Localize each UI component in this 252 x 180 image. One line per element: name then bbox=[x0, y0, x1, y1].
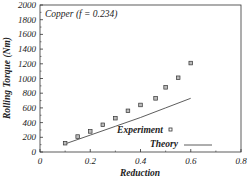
material-annotation: Copper (f = 0.234) bbox=[45, 9, 117, 20]
rolling-torque-chart: 0200400600800100012001400160018002000 00… bbox=[0, 0, 252, 180]
experiment-point bbox=[114, 116, 118, 120]
y-tick-label: 800 bbox=[23, 88, 37, 98]
x-axis-title: Reduction bbox=[119, 168, 160, 178]
theory-line bbox=[65, 98, 191, 144]
experiment-point bbox=[63, 141, 67, 145]
experiment-point bbox=[76, 135, 80, 139]
y-tick-label: 200 bbox=[23, 132, 37, 142]
experiment-point bbox=[176, 76, 180, 80]
experiment-point bbox=[139, 103, 143, 107]
y-tick-label: 1600 bbox=[18, 29, 37, 39]
legend: Experiment Theory bbox=[116, 125, 212, 149]
x-tick-label: 0.6 bbox=[185, 156, 197, 166]
y-axis-ticks: 0200400600800100012001400160018002000 bbox=[18, 0, 43, 157]
experiment-point bbox=[88, 130, 92, 134]
x-tick-label: 0.2 bbox=[85, 156, 97, 166]
y-tick-label: 0 bbox=[32, 147, 37, 157]
legend-label-theory: Theory bbox=[150, 139, 179, 149]
experiment-point bbox=[154, 97, 158, 101]
x-tick-label: 0.4 bbox=[135, 156, 147, 166]
y-tick-label: 1200 bbox=[18, 59, 37, 69]
y-tick-label: 2000 bbox=[18, 0, 37, 10]
y-tick-label: 1000 bbox=[18, 74, 37, 84]
y-tick-label: 1800 bbox=[18, 15, 37, 25]
legend-label-experiment: Experiment bbox=[116, 125, 163, 135]
x-axis-ticks: 00.20.40.60.8 bbox=[38, 149, 247, 166]
legend-square-marker-icon bbox=[169, 128, 172, 131]
y-tick-label: 400 bbox=[23, 118, 37, 128]
experiment-point bbox=[126, 109, 130, 113]
x-tick-label: 0 bbox=[38, 156, 43, 166]
experiment-point bbox=[164, 86, 168, 90]
theory-series bbox=[65, 98, 191, 144]
y-tick-label: 1400 bbox=[18, 44, 37, 54]
x-tick-label: 0.8 bbox=[235, 156, 247, 166]
y-axis-title: Rolling Torque (Nm) bbox=[2, 37, 13, 120]
y-tick-label: 600 bbox=[23, 103, 37, 113]
experiment-point bbox=[101, 123, 105, 127]
experiment-point bbox=[189, 61, 193, 65]
